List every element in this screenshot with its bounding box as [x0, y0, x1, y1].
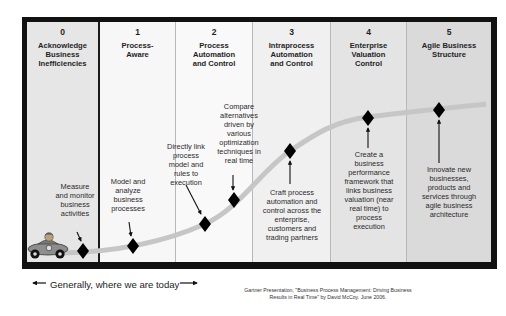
annotation-line: and monitor — [55, 191, 94, 200]
stage-number: 2 — [176, 28, 252, 37]
today-label-text: Generally, where we are today — [50, 279, 179, 290]
annotation-line: driven by — [224, 120, 254, 129]
annotation-line: Measure — [61, 182, 90, 191]
annotation-line: agile business — [426, 201, 473, 210]
annotation-measure: Measure and monitor business activities — [45, 182, 105, 218]
stage-title-line: and Control — [270, 59, 313, 68]
annotation-line: business — [60, 200, 89, 209]
maturity-model-frame: 0 Acknowledge Business Inefficiencies 1 … — [22, 17, 497, 269]
annotation-line: Compare — [224, 102, 254, 111]
annotation-line: valuation (near — [345, 195, 394, 204]
stage-title-line: Business — [46, 50, 80, 59]
annotation-line: optimization — [219, 138, 258, 147]
stage-title-line: and Control — [193, 59, 236, 68]
annotation-line: techniques in — [217, 147, 261, 156]
annotation-line: alternatives — [220, 111, 258, 120]
annotation-line: Model and — [111, 177, 146, 186]
stage-number: 0 — [27, 28, 98, 37]
annotation-line: processes — [111, 204, 145, 213]
stage-title-line: Intraprocess — [269, 41, 315, 50]
annotation-line: control across the — [263, 206, 321, 215]
stage-title-line: Acknowledge — [38, 41, 87, 50]
annotation-model: Model and analyze business processes — [103, 177, 153, 213]
annotation-line: process — [356, 213, 382, 222]
annotation-craft: Craft process automation and control acr… — [254, 188, 330, 242]
annotation-line: business — [113, 195, 142, 204]
annotation-create: Create a business performance framework … — [331, 150, 407, 231]
annotation-line: services through — [422, 192, 476, 201]
annotation-line: framework that — [345, 177, 394, 186]
annotation-line: model and — [169, 160, 204, 169]
stage-number: 4 — [331, 28, 406, 37]
annotation-line: execution — [170, 178, 202, 187]
stage-title-line: Automation — [193, 50, 235, 59]
annotation-line: businesses, — [429, 174, 468, 183]
citation-line: Results in Real Time" by David McCoy. Ju… — [270, 294, 387, 300]
stage-title-line: Control — [355, 59, 382, 68]
annotation-line: real time) to — [349, 204, 388, 213]
stage-title-line: Automation — [270, 50, 312, 59]
source-citation: Gartner Presentation, "Business Process … — [228, 287, 428, 300]
stage-number: 5 — [407, 28, 491, 37]
annotation-line: rules to — [174, 169, 198, 178]
stage-header-1: 1 Process- Aware — [100, 28, 175, 59]
stage-header-4: 4 Enterprise Valuation Control — [331, 28, 406, 68]
citation-line: Gartner Presentation, "Business Process … — [244, 287, 411, 293]
annotation-innovate: Innovate new businesses, products and se… — [407, 165, 491, 219]
annotation-line: activities — [61, 209, 89, 218]
annotation-line: various — [227, 129, 251, 138]
stage-title-line: Process- — [121, 41, 153, 50]
stage-header-5: 5 Agile Business Structure — [407, 28, 491, 59]
annotation-line: business — [354, 159, 383, 168]
annotation-line: execution — [353, 222, 385, 231]
annotation-line: real time — [225, 156, 253, 165]
stage-number: 1 — [100, 28, 175, 37]
annotation-line: Directly link — [167, 142, 205, 151]
stage-title-line: Enterprise — [350, 41, 388, 50]
today-label: Generally, where we are today — [50, 279, 179, 290]
stage-title-line: Valuation — [352, 50, 386, 59]
stage-header-3: 3 Intraprocess Automation and Control — [253, 28, 330, 68]
stage-title-line: Inefficiencies — [38, 59, 86, 68]
stage-title-line: Agile Business — [422, 41, 476, 50]
annotation-line: analyze — [115, 186, 140, 195]
stage-column-0: 0 Acknowledge Business Inefficiencies — [27, 22, 100, 262]
stage-header-0: 0 Acknowledge Business Inefficiencies — [27, 28, 98, 68]
annotation-line: Craft process — [270, 188, 314, 197]
annotation-line: customers and — [268, 224, 316, 233]
stage-number: 3 — [253, 28, 330, 37]
annotation-line: trading partners — [266, 233, 318, 242]
annotation-line: performance — [348, 168, 390, 177]
annotation-line: enterprise, — [275, 215, 310, 224]
stage-header-2: 2 Process Automation and Control — [176, 28, 252, 68]
annotation-line: Create a — [355, 150, 383, 159]
annotation-link: Directly link process model and rules to… — [158, 142, 214, 187]
annotation-line: Innovate new — [427, 165, 471, 174]
stage-title-line: Structure — [432, 50, 466, 59]
annotation-line: products and — [428, 183, 471, 192]
stage-column-5: 5 Agile Business Structure — [407, 22, 491, 262]
stage-title-line: Aware — [126, 50, 149, 59]
annotation-line: process — [173, 151, 199, 160]
annotation-line: links business — [346, 186, 392, 195]
stage-title-line: Process — [199, 41, 229, 50]
annotation-line: architecture — [430, 210, 469, 219]
annotation-compare: Compare alternatives driven by various o… — [211, 102, 267, 165]
annotation-line: automation and — [267, 197, 318, 206]
